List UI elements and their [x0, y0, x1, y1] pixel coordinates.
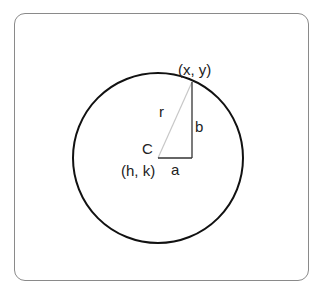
center-coords-label: (h, k) [121, 162, 155, 179]
center-letter-label: C [142, 140, 153, 157]
circle-diagram: (x, y) r b C (h, k) a [0, 0, 324, 295]
radius-label: r [159, 103, 164, 120]
horizontal-leg-label: a [171, 161, 180, 178]
radius-line [158, 82, 192, 158]
vertical-leg-label: b [195, 118, 203, 135]
point-label: (x, y) [178, 61, 211, 78]
